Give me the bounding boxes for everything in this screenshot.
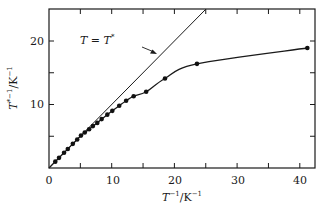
data-point [66,147,71,152]
y-axis-label: T*−1/K−1 [6,66,20,109]
data-point [62,150,67,155]
y-tick-label: 10 [30,98,44,111]
data-point [99,117,104,122]
data-points [53,46,310,164]
data-point [53,159,58,164]
data-point [117,103,122,108]
y-tick-labels: 10 20 [30,35,44,111]
data-point [95,121,100,126]
chart: 0 10 20 30 40 10 20 T−1/K−1 T*−1/K−1 T =… [0,0,325,210]
x-tick-label: 40 [293,174,307,187]
fitted-curve [49,48,307,168]
data-point [105,112,110,117]
data-point [163,76,168,81]
data-point [305,46,310,51]
data-point [91,124,96,129]
y-tick-label: 20 [30,35,44,48]
data-point [110,109,115,114]
x-axis-label: T−1/K−1 [162,190,202,204]
data-point [87,127,92,132]
data-point [144,90,149,95]
data-point [75,137,80,142]
x-tick-labels: 0 10 20 30 40 [46,174,308,187]
x-tick-label: 30 [231,174,245,187]
x-tick-label: 0 [46,174,53,187]
x-tick-label: 20 [168,174,182,187]
data-point [79,133,84,138]
measured-curve [49,48,307,168]
data-point [82,130,87,135]
data-point [195,62,200,67]
annotation-label: T = T* [80,33,115,47]
annotation-arrow-icon [142,47,157,54]
data-point [57,156,62,161]
data-point [71,142,76,147]
x-tick-label: 10 [106,174,120,187]
data-point [124,98,129,103]
data-point [131,94,136,99]
